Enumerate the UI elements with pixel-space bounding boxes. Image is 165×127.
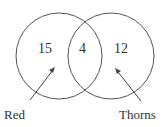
set-thorns-circle <box>68 13 154 99</box>
set-red-circle <box>16 13 102 99</box>
thorns-arrow <box>118 72 141 101</box>
thorns-label: Thorns <box>119 108 156 121</box>
thorns-only-count: 12 <box>114 42 128 56</box>
thorns-arrowhead-icon <box>115 68 121 74</box>
intersection-count: 4 <box>79 42 86 56</box>
red-arrowhead-icon <box>49 67 55 73</box>
red-only-count: 15 <box>38 42 52 56</box>
red-label: Red <box>4 108 25 121</box>
